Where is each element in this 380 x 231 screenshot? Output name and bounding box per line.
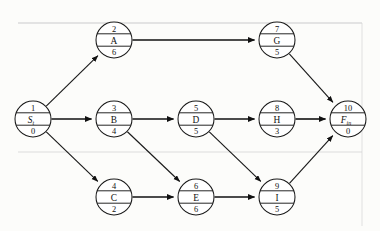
edge-D-I [209,132,260,182]
edge-start-A [46,56,98,106]
node-A-name: A [111,36,118,46]
network-diagram-svg: 1St02A63B44C25D56E67G58H39I510Fin0 [0,0,380,231]
node-I-number: 9 [275,182,279,191]
node-E-number: 6 [194,182,198,191]
network-diagram-canvas: 1St02A63B44C25D56E67G58H39I510Fin0 [0,0,380,231]
node-B-number: 3 [112,104,116,113]
node-G-duration: 5 [275,48,279,57]
node-D[interactable]: 5D5 [178,101,214,137]
node-fin-duration: 0 [346,127,350,136]
node-D-number: 5 [194,104,198,113]
node-I-name: I [275,193,278,203]
node-E-duration: 6 [194,205,198,214]
node-G-name: G [274,36,281,46]
node-I-duration: 5 [275,205,279,214]
node-G-number: 7 [275,25,279,34]
node-H-duration: 3 [275,127,279,136]
node-start-duration: 0 [31,127,35,136]
node-H[interactable]: 8H3 [259,101,295,137]
edge-start-C [46,132,97,182]
node-fin-number: 10 [344,104,352,113]
node-start[interactable]: 1St0 [15,101,51,137]
node-H-name: H [274,115,281,125]
node-G[interactable]: 7G5 [259,22,295,58]
node-fin[interactable]: 10Fin0 [330,101,366,137]
node-B-name: B [111,115,117,125]
node-E[interactable]: 6E6 [178,179,214,215]
node-B[interactable]: 3B4 [96,101,132,137]
node-D-name: D [193,115,200,125]
node-C-duration: 2 [112,205,116,214]
node-I[interactable]: 9I5 [259,179,295,215]
node-C[interactable]: 4C2 [96,179,132,215]
node-E-name: E [193,193,199,203]
edge-G-fin [289,54,333,103]
edge-I-fin [289,136,332,184]
node-fin-subscript: in [347,120,352,126]
node-A-duration: 6 [112,48,116,57]
node-A-number: 2 [112,25,116,34]
edge-B-E [127,132,179,182]
node-A[interactable]: 2A6 [96,22,132,58]
node-D-duration: 5 [194,127,198,136]
node-C-name: C [111,193,117,203]
node-H-number: 8 [275,104,279,113]
node-start-number: 1 [31,104,35,113]
